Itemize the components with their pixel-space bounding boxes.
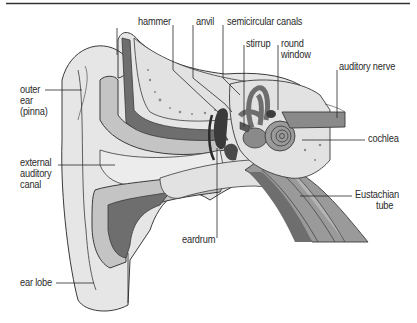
label-stirrup: stirrup <box>246 38 270 49</box>
auditory-nerve <box>282 112 345 128</box>
label-round-window-line2: window <box>281 49 311 60</box>
label-anvil: anvil <box>196 16 214 27</box>
label-ear-lobe: ear lobe <box>20 277 52 288</box>
label-external-canal-line3: canal <box>20 179 41 190</box>
label-hammer: hammer <box>138 16 171 27</box>
label-outer-ear-line3: (pinna) <box>20 106 48 117</box>
label-eustachian-line2: tube <box>376 200 393 211</box>
label-cochlea: cochlea <box>368 133 399 144</box>
label-semicircular-canals: semicircular canals <box>227 16 302 27</box>
round-window <box>266 110 276 118</box>
label-eardrum: eardrum <box>182 234 215 245</box>
ear-diagram: hammer anvil semicircular canals stirrup… <box>0 0 417 323</box>
label-auditory-nerve: auditory nerve <box>339 61 395 72</box>
ear-illustration <box>0 0 417 323</box>
